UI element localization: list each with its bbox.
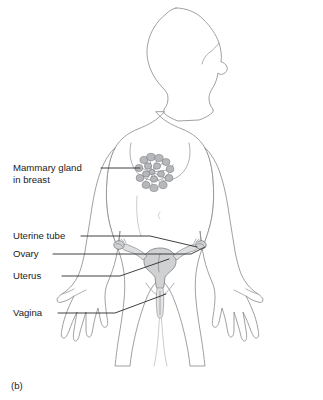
label-ovary: Ovary — [13, 248, 39, 259]
left-ovary — [114, 241, 124, 250]
label-uterus: Uterus — [13, 270, 41, 281]
label-mammary-gland-line1: Mammary gland — [13, 162, 82, 173]
right-ovary — [196, 241, 206, 250]
anatomy-illustration: Mammary gland in breast Uterine tube Ova… — [0, 0, 323, 400]
label-uterine-tube: Uterine tube — [13, 230, 65, 241]
label-mammary-gland-line2: in breast — [13, 174, 50, 185]
figure-caption: (b) — [11, 380, 23, 391]
anatomy-figure: Mammary gland in breast Uterine tube Ova… — [0, 0, 323, 400]
label-vagina: Vagina — [13, 307, 43, 318]
